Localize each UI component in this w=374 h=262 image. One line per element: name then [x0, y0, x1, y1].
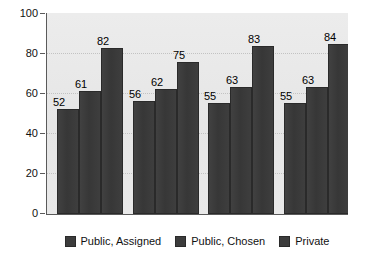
- y-axis-tick-mark: [40, 133, 45, 134]
- bar-value-label: 61: [68, 79, 94, 90]
- data-labels-layer: 526182566275556383556384: [46, 13, 348, 215]
- legend-swatch-icon: [279, 236, 290, 247]
- bar-value-label: 62: [144, 77, 170, 88]
- y-axis-tick-mark: [40, 13, 45, 14]
- bar-value-label: 55: [197, 91, 223, 102]
- bar-value-label: 63: [219, 75, 245, 86]
- y-axis-tick-mark: [40, 53, 45, 54]
- bar-value-label: 55: [273, 91, 299, 102]
- bar-value-label: 82: [90, 36, 116, 47]
- y-axis-tick-mark: [40, 173, 45, 174]
- y-axis-tick-mark: [40, 213, 45, 214]
- legend-label: Private: [295, 236, 329, 247]
- y-axis-tick-marks: [0, 13, 46, 215]
- bar-value-label: 52: [46, 97, 72, 108]
- bar-value-label: 75: [166, 50, 192, 61]
- legend-label: Public, Chosen: [191, 236, 265, 247]
- y-axis-tick-mark: [40, 93, 45, 94]
- legend-swatch-icon: [65, 236, 76, 247]
- legend-swatch-icon: [175, 236, 186, 247]
- bar-value-label: 56: [122, 89, 148, 100]
- bar-value-label: 63: [295, 75, 321, 86]
- bar-chart: 100 80 60 40 20 0 5261825662755563835563…: [0, 0, 374, 262]
- bar-value-label: 83: [241, 34, 267, 45]
- legend-label: Public, Assigned: [81, 236, 162, 247]
- legend-item-public-assigned[interactable]: Public, Assigned: [65, 236, 162, 247]
- chart-legend: Public, Assigned Public, Chosen Private: [46, 229, 348, 253]
- legend-item-public-chosen[interactable]: Public, Chosen: [175, 236, 265, 247]
- legend-item-private[interactable]: Private: [279, 236, 329, 247]
- bar-value-label: 84: [317, 32, 343, 43]
